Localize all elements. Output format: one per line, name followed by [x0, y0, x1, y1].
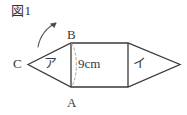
dimension-label-9cm: 9cm [78, 57, 100, 70]
dashed-arc [72, 44, 77, 87]
figure-canvas: 図1 B A C ア イ 9cm [0, 0, 187, 115]
vertex-label-C: C [13, 57, 22, 70]
vertex-label-A: A [67, 96, 76, 109]
region-label-a: ア [44, 56, 57, 69]
figure-caption: 図1 [11, 4, 32, 17]
vertex-label-B: B [67, 28, 76, 41]
leader-arrow-icon [38, 23, 56, 47]
region-label-i: イ [133, 56, 146, 69]
